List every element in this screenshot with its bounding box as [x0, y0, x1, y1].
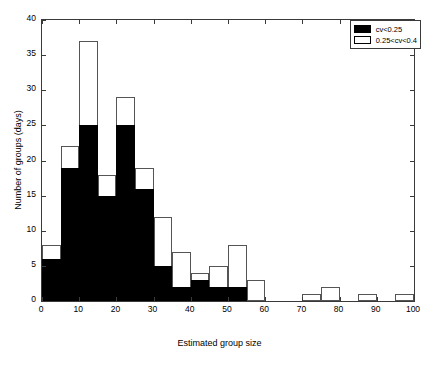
x-tick	[377, 297, 378, 301]
y-tick	[42, 231, 46, 232]
x-tick-label: 90	[361, 305, 391, 314]
bar-segment-filled	[191, 280, 210, 301]
legend-label: cv<0.25	[376, 25, 402, 34]
x-tick-label: 0	[26, 305, 56, 314]
x-tick-top	[302, 20, 303, 24]
y-tick-label: 40	[10, 14, 36, 23]
bar-segment-filled	[209, 287, 228, 301]
x-tick-label: 10	[63, 305, 93, 314]
x-tick-top	[42, 20, 43, 24]
x-tick	[116, 297, 117, 301]
bar-segment-hollow	[247, 280, 266, 301]
histogram-bar	[116, 97, 135, 301]
y-tick-label: 35	[10, 49, 36, 58]
x-tick-label: 80	[324, 305, 354, 314]
y-tick-label: 0	[10, 295, 36, 304]
legend-swatch-filled-icon	[354, 25, 371, 33]
x-tick-top	[154, 20, 155, 24]
y-tick-right	[410, 125, 414, 126]
x-tick	[302, 297, 303, 301]
histogram-bar	[61, 146, 80, 301]
y-tick-label: 30	[10, 84, 36, 93]
y-tick-right	[410, 301, 414, 302]
bar-segment-filled	[154, 266, 173, 301]
bar-segment-hollow	[321, 287, 340, 301]
y-tick-right	[410, 90, 414, 91]
x-tick-top	[79, 20, 80, 24]
histogram-bar	[172, 252, 191, 301]
x-tick-label: 70	[286, 305, 316, 314]
x-tick-top	[265, 20, 266, 24]
x-tick-label: 30	[138, 305, 168, 314]
x-tick-top	[191, 20, 192, 24]
x-tick-label: 100	[398, 305, 428, 314]
histogram-bar	[302, 294, 321, 301]
x-tick-label: 50	[212, 305, 242, 314]
x-tick-top	[340, 20, 341, 24]
bar-segment-hollow	[302, 294, 321, 301]
y-tick-right	[410, 231, 414, 232]
histogram-bars	[42, 20, 414, 301]
y-tick-right	[410, 196, 414, 197]
y-tick	[42, 301, 46, 302]
y-tick	[42, 161, 46, 162]
x-tick	[228, 297, 229, 301]
y-axis-title: Number of groups (days)	[13, 95, 23, 225]
x-tick	[340, 297, 341, 301]
histogram-bar	[358, 294, 377, 301]
x-tick-label: 40	[175, 305, 205, 314]
y-tick	[42, 55, 46, 56]
bar-segment-filled	[116, 125, 135, 301]
x-tick-top	[116, 20, 117, 24]
histogram-bar	[247, 280, 266, 301]
x-tick-label: 20	[100, 305, 130, 314]
histogram-bar	[98, 175, 117, 301]
bar-segment-filled	[135, 189, 154, 301]
legend-label: 0.25<cv<0.4	[376, 36, 417, 45]
bar-segment-filled	[61, 168, 80, 301]
histogram-bar	[228, 245, 247, 301]
x-tick-top	[228, 20, 229, 24]
legend-item: cv<0.25	[354, 24, 417, 34]
bar-segment-filled	[228, 287, 247, 301]
y-tick-right	[410, 55, 414, 56]
x-tick	[154, 297, 155, 301]
histogram-bar	[209, 266, 228, 301]
legend-swatch-hollow-icon	[354, 36, 371, 44]
bar-segment-filled	[79, 125, 98, 301]
bar-segment-hollow	[395, 294, 414, 301]
histogram-bar	[42, 245, 61, 301]
histogram-bar	[79, 41, 98, 301]
y-tick-label: 10	[10, 225, 36, 234]
y-tick	[42, 90, 46, 91]
histogram-bar	[154, 217, 173, 301]
x-tick	[191, 297, 192, 301]
histogram-bar	[321, 287, 340, 301]
y-tick-label: 5	[10, 260, 36, 269]
bar-segment-filled	[172, 287, 191, 301]
x-tick	[79, 297, 80, 301]
legend-item: 0.25<cv<0.4	[354, 35, 417, 45]
y-tick	[42, 266, 46, 267]
y-tick	[42, 125, 46, 126]
y-tick-right	[410, 161, 414, 162]
x-tick-label: 60	[249, 305, 279, 314]
x-tick	[42, 297, 43, 301]
plot-area	[41, 19, 415, 302]
chart-legend: cv<0.25 0.25<cv<0.4	[350, 20, 421, 49]
bar-segment-hollow	[358, 294, 377, 301]
x-axis-title: Estimated group size	[0, 338, 439, 348]
x-tick	[265, 297, 266, 301]
histogram-figure: 0510152025303540 0102030405060708090100 …	[0, 0, 439, 369]
histogram-bar	[135, 168, 154, 301]
bar-segment-filled	[98, 196, 117, 301]
histogram-bar	[191, 273, 210, 301]
y-tick-right	[410, 266, 414, 267]
x-tick	[414, 297, 415, 301]
y-tick	[42, 196, 46, 197]
histogram-bar	[395, 294, 414, 301]
